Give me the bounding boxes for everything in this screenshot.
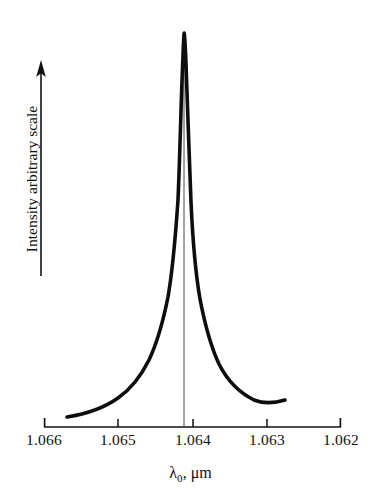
x-tick-label-1066: 1.066 — [26, 431, 62, 449]
spectral-lineshape-plot — [0, 0, 381, 504]
x-tick-label-1064: 1.064 — [175, 431, 211, 449]
x-axis-title-lambda: λ — [169, 464, 177, 481]
x-tick-label-1065: 1.065 — [100, 431, 136, 449]
x-axis-title: λ0, μm — [0, 464, 381, 484]
x-tick-label-1063: 1.063 — [249, 431, 285, 449]
x-axis-title-units: , μm — [183, 464, 212, 481]
figure-root: 1.066 1.065 1.064 1.063 1.062 λ0, μm Int… — [0, 0, 381, 504]
lineshape-curve — [67, 33, 285, 417]
x-tick-label-1062: 1.062 — [323, 431, 359, 449]
y-axis-title: Intensity arbitrary scale — [23, 49, 41, 309]
x-axis-ticks — [118, 419, 267, 427]
